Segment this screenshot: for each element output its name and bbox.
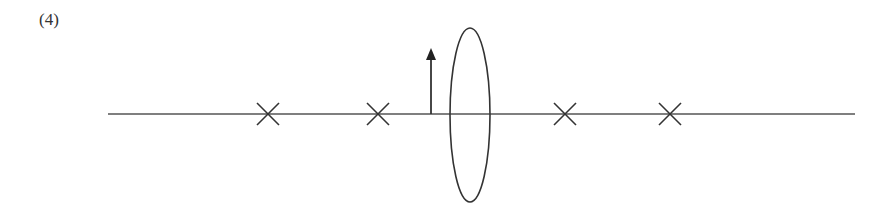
convex-lens xyxy=(450,28,490,202)
object-arrow xyxy=(426,48,436,114)
arrow-head-icon xyxy=(426,48,436,60)
optics-diagram xyxy=(0,0,890,224)
